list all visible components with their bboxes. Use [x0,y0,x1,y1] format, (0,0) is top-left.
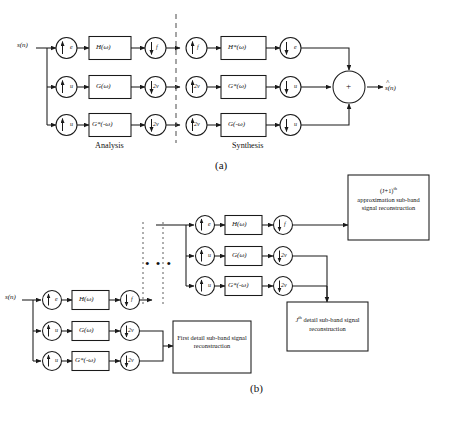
b2-downsampler-label-2: 2v [281,252,287,258]
downsampler-label-a3: 2v [153,121,159,127]
box-approximation-prefix: (J+1) [380,187,394,194]
b-upsampler-label-2: u [55,327,58,333]
box-jth-detail-text: Jth detail sub-band signal reconstructio… [290,315,365,333]
output-hat-accent: ^ [386,79,389,86]
panel-a-wires [36,48,383,125]
figure-canvas: s(n) e u u H(ω) G(ω) G*(-ω) f 2v 2v f 2v… [0,0,458,424]
panel-b-input-label: s(n) [5,294,16,301]
b-downsampler-label-2: 2v [128,327,134,333]
b2-upsampler-label-1: e [208,221,211,227]
summing-junction-symbol: + [346,82,351,91]
upsampler-label-s2: 2v [194,83,200,89]
upsampler-label-a3: u [70,121,73,127]
b-filter-label-2: G(ω) [79,327,94,334]
b2-upsampler-label-3: u [208,282,211,288]
filter-label-s2: G*(ω) [228,83,246,90]
b-upsampler-label-3: u [55,357,58,363]
downsampler-label-a1: f [156,44,158,50]
b2-downsampler-label-3: 2v [281,282,287,288]
b2-filter-label-2: G(ω) [232,252,247,259]
filter-label-a3: G*(-ω) [92,121,113,128]
upsampler-label-s1: f [197,44,199,50]
filter-label-a2: G(ω) [96,83,111,90]
caption-a: (a) [215,160,227,171]
b-downsampler-label-3: 2v [128,357,134,363]
upsampler-label-s3: 2v [194,121,200,127]
b2-upsampler-label-2: u [208,252,211,258]
b2-filter-label-1: H(ω) [232,221,247,228]
b-downsampler-label-1: f [131,296,133,302]
downsampler-label-s1: e [294,44,297,50]
box-jth-rest: detail sub-band signal reconstruction [302,316,360,331]
b-upsampler-label-1: e [55,296,58,302]
box-first-detail-text: First detail sub-band signal reconstruct… [176,334,248,351]
b-filter-label-3: G*(-ω) [75,357,96,364]
caption-b: (b) [250,383,263,394]
b2-downsampler-label-1: f [284,221,286,227]
upsampler-label-a2: u [70,83,73,89]
box-approximation-text: (J+1)thapproximation sub-band signal rec… [351,186,426,212]
upsampler-label-a1: e [70,44,73,50]
filter-label-s1: H*(ω) [228,44,246,51]
b-filter-label-1: H(ω) [79,296,94,303]
panel-a-output-label: ^s(n) [385,85,396,92]
panel-a-input-label: s(n) [17,42,28,49]
downsampler-label-a2: 2v [153,83,159,89]
box-approximation-sup: th [393,186,397,191]
downsampler-label-s3: u [294,121,297,127]
section-label-synthesis: Synthesis [232,142,263,150]
filter-label-a1: H(ω) [96,44,111,51]
downsampler-label-s2: u [294,83,297,89]
stage-ellipsis: • • • [145,256,173,272]
filter-label-s3: G(-ω) [228,121,245,128]
box-approximation-rest: approximation sub-band signal reconstruc… [357,196,419,211]
section-label-analysis: Analysis [95,142,124,150]
b2-filter-label-3: G*(-ω) [228,282,249,289]
